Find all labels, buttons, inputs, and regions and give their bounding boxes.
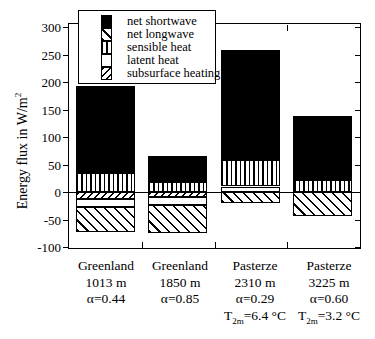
category-label-greenland-1850: Greenland 1850 m α=0.85 xyxy=(137,258,223,308)
energy-balance-figure: Energy flux in W/m2 300250200150100500-5… xyxy=(0,0,375,339)
bar-segment-sensible-heat-0 xyxy=(76,173,135,192)
net-longwave-swatch-icon xyxy=(101,28,112,41)
y-axis-tick-label-0: 0 xyxy=(25,185,61,200)
y-axis-tick-label-250: 250 xyxy=(25,48,61,63)
y-axis-tick-left--50 xyxy=(63,220,68,221)
bar-segment-net-longwave-3 xyxy=(293,192,352,216)
x-axis-boundary-tick-top-3 xyxy=(287,25,288,31)
y-axis-tick-left-250 xyxy=(63,55,68,56)
y-axis-tick-label-150: 150 xyxy=(25,103,61,118)
category-elevation: 1850 m xyxy=(137,275,223,292)
bar-segment-latent-heat-1 xyxy=(148,197,207,205)
y-axis-tick-label--50: -50 xyxy=(25,213,61,228)
y-axis-tick-right-150 xyxy=(355,110,360,111)
y-axis-tick-label-100: 100 xyxy=(25,130,61,145)
t2m-subscript: 2m xyxy=(232,315,244,325)
bar-segment-net-shortwave-0 xyxy=(76,86,135,173)
bar-segment-net-longwave-1 xyxy=(148,205,207,233)
y-axis-tick-right-250 xyxy=(355,55,360,56)
t2m-value: =3.2 °C xyxy=(318,308,360,323)
y-axis-tick-left-0 xyxy=(63,192,68,193)
legend-label-net-shortwave: net shortwave xyxy=(127,14,197,28)
y-axis-tick-label-50: 50 xyxy=(25,158,61,173)
x-axis-boundary-tick-bottom-1 xyxy=(142,242,143,248)
x-axis-boundary-tick-bottom-2 xyxy=(215,242,216,248)
bar-segment-net-longwave-2 xyxy=(221,192,280,203)
sensible-heat-swatch-icon xyxy=(101,41,112,54)
bar-segment-sensible-heat-2 xyxy=(221,160,280,186)
bar-segment-net-shortwave-1 xyxy=(148,156,207,182)
legend-label-net-longwave: net longwave xyxy=(127,27,194,41)
bar-segment-sensible-heat-1 xyxy=(148,182,207,192)
y-axis-tick-right-50 xyxy=(355,165,360,166)
category-albedo: α=0.60 xyxy=(286,291,372,308)
latent-heat-swatch-icon xyxy=(101,54,112,67)
category-site: Pasterze xyxy=(286,258,372,275)
category-albedo: α=0.85 xyxy=(137,291,223,308)
bar-segment-latent-heat-0 xyxy=(76,199,135,207)
y-axis-tick-right--100 xyxy=(355,247,360,248)
bar-segment-net-shortwave-2 xyxy=(221,50,280,161)
y-axis-tick-left-200 xyxy=(63,82,68,83)
y-axis-tick-label--100: -100 xyxy=(25,240,61,255)
x-axis-boundary-tick-bottom-3 xyxy=(287,242,288,248)
y-axis-tick-right-300 xyxy=(355,27,360,28)
y-axis-tick-left-300 xyxy=(63,27,68,28)
y-axis-tick-label-300: 300 xyxy=(25,20,61,35)
subsurface-heating-swatch-icon xyxy=(101,67,112,80)
bar-segment-net-longwave-0 xyxy=(76,207,135,232)
y-axis-tick-right-100 xyxy=(355,137,360,138)
category-temperature: T2m=3.2 °C xyxy=(286,308,372,329)
y-axis-tick-right-0 xyxy=(355,192,360,193)
legend-label-subsurface-heating: subsurface heating xyxy=(127,66,220,80)
y-axis-tick-label-200: 200 xyxy=(25,75,61,90)
category-elevation: 3225 m xyxy=(286,275,372,292)
legend-row-subsurface-heating: subsurface heating xyxy=(79,67,215,80)
legend-label-sensible-heat: sensible heat xyxy=(127,40,191,54)
bar-segment-net-shortwave-3 xyxy=(293,116,352,180)
category-label-pasterze-3225: Pasterze 3225 m α=0.60 T2m=3.2 °C xyxy=(286,258,372,329)
y-axis-tick-right--50 xyxy=(355,220,360,221)
net-shortwave-swatch-icon xyxy=(101,15,112,28)
y-axis-title-superscript: 2 xyxy=(13,93,23,98)
t2m-subscript: 2m xyxy=(306,315,318,325)
y-axis-tick-right-200 xyxy=(355,82,360,83)
y-axis-tick-left-50 xyxy=(63,165,68,166)
t2m-value: =6.4 °C xyxy=(244,308,286,323)
y-axis-tick-left--100 xyxy=(63,247,68,248)
legend: net shortwave net longwave sensible heat… xyxy=(78,10,216,84)
category-site: Greenland xyxy=(137,258,223,275)
legend-label-latent-heat: latent heat xyxy=(127,53,179,67)
y-axis-tick-left-100 xyxy=(63,137,68,138)
bar-segment-subsurface-heating-0 xyxy=(76,192,135,199)
t2m-symbol: T xyxy=(298,308,306,323)
y-axis-tick-left-150 xyxy=(63,110,68,111)
bar-segment-sensible-heat-3 xyxy=(293,180,352,192)
t2m-symbol: T xyxy=(224,308,232,323)
